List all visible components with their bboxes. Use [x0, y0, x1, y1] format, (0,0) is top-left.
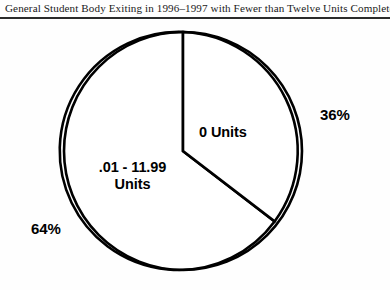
title-block: General Student Body Exiting in 1996–199…: [0, 0, 390, 21]
slice-label-partial-units-line2: Units: [115, 176, 151, 192]
pie-chart-figure: General Student Body Exiting in 1996–199…: [0, 0, 390, 290]
title-divider-rule: [0, 17, 390, 19]
slice-label-partial-units: .01 - 11.99Units: [85, 159, 180, 192]
pie-chart-svg: [0, 21, 390, 290]
pie-chart-area: 0 Units .01 - 11.99Units 36% 64%: [0, 21, 390, 290]
slice-label-partial-units-line1: .01 - 11.99: [99, 159, 166, 175]
chart-title: General Student Body Exiting in 1996–199…: [5, 1, 387, 15]
slice-label-zero-units: 0 Units: [199, 124, 247, 140]
slice-percent-zero-units: 36%: [320, 106, 350, 123]
slice-percent-partial-units: 64%: [31, 220, 61, 237]
